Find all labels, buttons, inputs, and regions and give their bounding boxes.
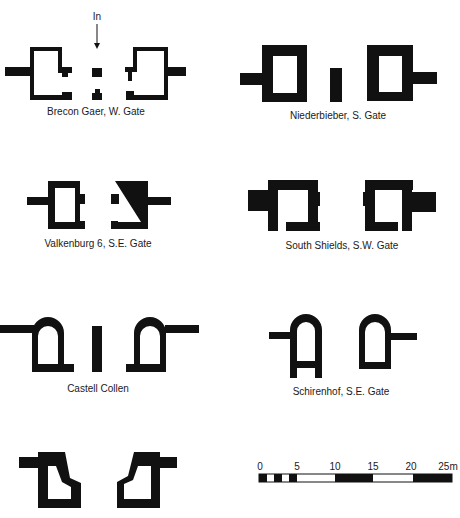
label-valkenburg: Valkenburg 6, S.E. Gate bbox=[44, 238, 151, 249]
scale-tick-10: 10 bbox=[329, 461, 340, 472]
label-niederbieber: Niederbieber, S. Gate bbox=[290, 110, 386, 121]
label-schirenhof: Schirenhof, S.E. Gate bbox=[293, 386, 390, 397]
plan-south-shields bbox=[248, 180, 436, 231]
scale-bar bbox=[259, 474, 452, 482]
plan-schirenhof bbox=[269, 314, 417, 378]
label-brecon-gaer: Brecon Gaer, W. Gate bbox=[47, 106, 145, 117]
scale-tick-20: 20 bbox=[405, 461, 416, 472]
entrance-label: In bbox=[93, 11, 101, 22]
plan-castell-collen bbox=[0, 317, 199, 372]
gate-plans-drawing bbox=[0, 0, 460, 518]
plan-unlabeled-gate bbox=[19, 452, 177, 508]
scale-tick-15: 15 bbox=[367, 461, 378, 472]
label-south-shields: South Shields, S.W. Gate bbox=[286, 240, 399, 251]
plan-niederbieber bbox=[240, 45, 437, 102]
scale-tick-5: 5 bbox=[294, 461, 300, 472]
plan-valkenburg bbox=[27, 181, 171, 229]
scale-tick-25: 25m bbox=[438, 461, 457, 472]
arrow-head bbox=[94, 43, 100, 49]
label-castell-collen: Castell Collen bbox=[67, 383, 129, 394]
plan-brecon-gaer bbox=[5, 24, 186, 100]
scale-tick-0: 0 bbox=[257, 461, 263, 472]
